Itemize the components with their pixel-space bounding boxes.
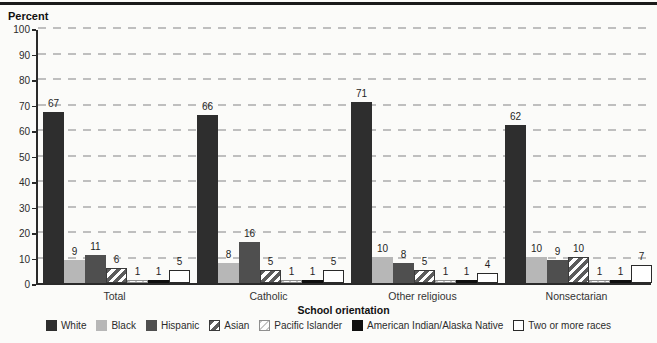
y-tick-label: 80 xyxy=(4,75,30,86)
bar-value-label: 10 xyxy=(564,243,594,254)
y-tick-label: 60 xyxy=(4,126,30,137)
y-tick-mark xyxy=(32,259,36,261)
bar xyxy=(64,260,85,283)
bar xyxy=(302,280,323,283)
legend-item: Asian xyxy=(209,320,249,331)
legend-label: American Indian/Alaska Native xyxy=(367,320,503,331)
bar-cluster: 668165115 xyxy=(197,30,344,283)
x-axis-title: School orientation xyxy=(36,304,651,316)
legend-item: American Indian/Alaska Native xyxy=(352,320,503,331)
y-tick-mark xyxy=(32,131,36,133)
legend-item: Black xyxy=(96,320,135,331)
bar-cluster: 711085114 xyxy=(351,30,498,283)
bar xyxy=(547,260,568,283)
bar xyxy=(323,270,344,283)
bar-value-label: 7 xyxy=(627,251,657,262)
y-tick-mark xyxy=(32,55,36,57)
plot-area: 6791161156681651157110851146210910117 xyxy=(36,30,651,285)
y-tick-mark xyxy=(32,80,36,82)
category-label: Total xyxy=(55,290,175,302)
y-tick-label: 90 xyxy=(4,50,30,61)
legend-swatch xyxy=(513,320,524,331)
y-tick-label: 40 xyxy=(4,177,30,188)
y-tick-mark xyxy=(32,182,36,184)
bar xyxy=(505,125,526,283)
y-tick-mark xyxy=(32,208,36,210)
y-tick-mark xyxy=(32,29,36,31)
y-tick-label: 10 xyxy=(4,254,30,265)
bar xyxy=(127,280,148,283)
bar xyxy=(372,257,393,283)
legend-swatch xyxy=(96,320,107,331)
bar-value-label: 6 xyxy=(102,254,132,265)
legend-label: White xyxy=(61,320,87,331)
bar xyxy=(589,280,610,283)
bar xyxy=(43,112,64,283)
legend-item: White xyxy=(46,320,87,331)
bar xyxy=(526,257,547,283)
gridline-100 xyxy=(38,27,651,29)
legend-item: Hispanic xyxy=(146,320,199,331)
bar-value-label: 5 xyxy=(319,256,349,267)
legend-swatch xyxy=(46,320,57,331)
legend-label: Black xyxy=(111,320,135,331)
bar xyxy=(435,280,456,283)
legend-label: Pacific Islander xyxy=(274,320,342,331)
y-tick-mark xyxy=(32,233,36,235)
legend: WhiteBlackHispanicAsianPacific IslanderA… xyxy=(0,320,657,331)
y-tick-mark xyxy=(32,106,36,108)
bar xyxy=(477,273,498,283)
category-label: Nonsectarian xyxy=(517,290,637,302)
top-rule xyxy=(0,2,657,5)
bar-value-label: 11 xyxy=(81,241,111,252)
y-axis-title: Percent xyxy=(8,10,48,22)
figure: Percent 67911611566816511571108511462109… xyxy=(0,0,657,343)
legend-swatch xyxy=(146,320,157,331)
bar-value-label: 4 xyxy=(473,259,503,270)
category-label: Catholic xyxy=(209,290,329,302)
bar-value-label: 5 xyxy=(165,256,195,267)
category-label: Other religious xyxy=(363,290,483,302)
bar xyxy=(148,280,169,283)
bar xyxy=(456,280,477,283)
legend-label: Hispanic xyxy=(161,320,199,331)
bar-value-label: 71 xyxy=(347,88,377,99)
y-tick-label: 50 xyxy=(4,152,30,163)
bar xyxy=(218,263,239,283)
bar-cluster: 679116115 xyxy=(43,30,190,283)
y-tick-label: 30 xyxy=(4,203,30,214)
bar xyxy=(631,265,652,283)
bar-value-label: 66 xyxy=(193,101,223,112)
y-tick-mark xyxy=(32,284,36,286)
legend-swatch xyxy=(352,320,363,331)
bar-value-label: 67 xyxy=(39,98,69,109)
bar-cluster: 6210910117 xyxy=(505,30,652,283)
bar xyxy=(281,280,302,283)
bar-value-label: 16 xyxy=(235,228,265,239)
legend-swatch xyxy=(209,320,220,331)
bar xyxy=(610,280,631,283)
legend-label: Asian xyxy=(224,320,249,331)
legend-item: Pacific Islander xyxy=(259,320,342,331)
bar xyxy=(169,270,190,283)
legend-item: Two or more races xyxy=(513,320,611,331)
y-tick-label: 70 xyxy=(4,101,30,112)
legend-label: Two or more races xyxy=(528,320,611,331)
bar xyxy=(351,102,372,283)
y-tick-label: 0 xyxy=(4,279,30,290)
y-tick-label: 20 xyxy=(4,228,30,239)
legend-swatch xyxy=(259,320,270,331)
y-tick-mark xyxy=(32,157,36,159)
bar-value-label: 62 xyxy=(501,111,531,122)
y-tick-label: 100 xyxy=(4,24,30,35)
